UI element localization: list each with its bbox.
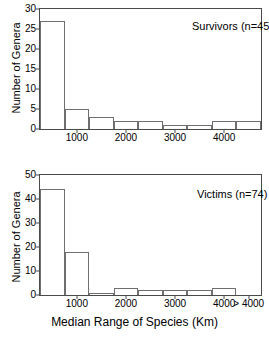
x-tick-mark xyxy=(224,129,225,133)
x-tick-mark xyxy=(175,129,176,133)
x-tick-mark xyxy=(76,129,77,133)
y-tick-label: 40 xyxy=(25,194,36,204)
x-tick-mark xyxy=(125,129,126,133)
x-tick-label: 3000 xyxy=(164,133,186,143)
y-tick-label: 15 xyxy=(25,64,36,74)
histogram-bar xyxy=(187,125,212,129)
histogram-bar xyxy=(236,121,261,129)
y-tick-label: 30 xyxy=(25,4,36,14)
histogram-bar xyxy=(65,109,90,129)
y-tick-mark xyxy=(36,49,40,50)
histogram-figure: Number of Genera Survivors (n=45) 051015… xyxy=(0,0,269,337)
histogram-bar xyxy=(40,21,65,129)
y-tick-mark xyxy=(36,109,40,110)
x-tick-label: 2000 xyxy=(115,133,137,143)
x-tick-label: 3000 xyxy=(164,299,186,309)
y-tick-label: 30 xyxy=(25,218,36,228)
histogram-bar xyxy=(138,121,163,129)
x-tick-label: 1000 xyxy=(66,299,88,309)
histogram-bar xyxy=(65,252,90,295)
y-axis-label-victims: Number of Genera xyxy=(10,177,22,297)
y-tick-mark xyxy=(36,247,40,248)
y-tick-mark xyxy=(36,271,40,272)
y-tick-mark xyxy=(36,9,40,10)
histogram-bar xyxy=(114,121,139,129)
y-tick-mark xyxy=(36,175,40,176)
y-axis-label-survivors: Number of Genera xyxy=(10,8,22,128)
x-tick-mark xyxy=(125,295,126,299)
y-tick-mark xyxy=(36,295,40,296)
histogram-bar xyxy=(138,290,163,295)
plot-area-victims: Victims (n=74) 0102030405010002000300040… xyxy=(39,174,262,296)
x-tick-label: 4000 xyxy=(213,133,235,143)
histogram-bar xyxy=(89,117,114,129)
x-tick-label: 2000 xyxy=(115,299,137,309)
y-tick-label: 25 xyxy=(25,24,36,34)
plot-area-survivors: Survivors (n=45) 05101520253010002000300… xyxy=(39,8,262,130)
y-tick-label: 20 xyxy=(25,44,36,54)
histogram-bar xyxy=(89,293,114,295)
y-tick-mark xyxy=(36,69,40,70)
y-tick-label: 10 xyxy=(25,266,36,276)
x-tick-mark xyxy=(175,295,176,299)
histogram-bar xyxy=(40,189,65,295)
x-tick-mark xyxy=(76,295,77,299)
panel-victims: Number of Genera Victims (n=74) 01020304… xyxy=(0,165,269,337)
histogram-bar xyxy=(212,288,237,295)
y-tick-mark xyxy=(36,29,40,30)
x-tick-mark xyxy=(224,295,225,299)
histogram-bar xyxy=(187,290,212,295)
x-tick-label: > 4000 xyxy=(233,299,264,309)
y-tick-mark xyxy=(36,223,40,224)
panel-survivors: Number of Genera Survivors (n=45) 051015… xyxy=(0,0,269,165)
y-tick-label: 20 xyxy=(25,242,36,252)
y-tick-label: 10 xyxy=(25,84,36,94)
y-tick-mark xyxy=(36,129,40,130)
histogram-bar xyxy=(114,288,139,295)
x-tick-label: 1000 xyxy=(66,133,88,143)
x-tick-label: 4000 xyxy=(213,299,235,309)
x-axis-label: Median Range of Species (Km) xyxy=(0,315,269,329)
x-tick-mark xyxy=(248,295,249,299)
y-tick-mark xyxy=(36,89,40,90)
panel-title-victims: Victims (n=74) xyxy=(197,188,267,200)
y-tick-mark xyxy=(36,199,40,200)
y-tick-label: 50 xyxy=(25,170,36,180)
histogram-bar xyxy=(212,121,237,129)
panel-title-survivors: Survivors (n=45) xyxy=(192,20,269,32)
